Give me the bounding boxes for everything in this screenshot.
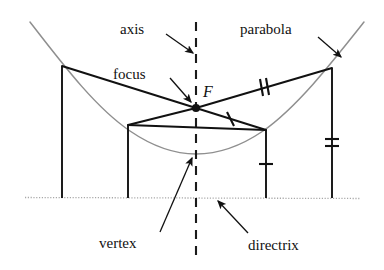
focus-point-label: F [202,83,213,100]
vertex-label: vertex [99,235,137,251]
directrix-label: directrix [248,237,299,253]
axis-label: axis [120,21,144,37]
parabola-figure: axis parabola focus F vertex directrix [0,0,384,270]
parabola-label: parabola [240,21,292,37]
focus-point-dot [192,104,200,112]
parabola-diagram-svg: axis parabola focus F vertex directrix [0,0,384,270]
focus-label: focus [113,66,146,82]
figure-background [0,0,384,270]
